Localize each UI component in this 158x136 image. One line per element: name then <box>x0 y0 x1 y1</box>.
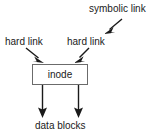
symbolic-link-arrow-shaft <box>110 19 123 30</box>
inode-to-data-blocks-arrow-right <box>74 85 83 118</box>
hard-link-left-label: hard link <box>5 36 43 48</box>
hard-link-right-label: hard link <box>67 36 105 48</box>
hard-link-right-arrow <box>74 48 89 63</box>
symbolic-link-arrow <box>104 19 122 34</box>
data-blocks-label: data blocks <box>35 120 86 132</box>
inode-box: inode <box>32 64 88 85</box>
symbolic-link-arrow-head <box>104 27 115 34</box>
inode-to-data-blocks-arrow-left <box>38 85 47 118</box>
inode-link-diagram: inode symbolic link hard link hard link … <box>0 0 158 136</box>
hard-link-left-arrow <box>26 48 44 63</box>
hard-link-left-arrow-shaft <box>26 48 39 58</box>
symbolic-link-label: symbolic link <box>89 3 146 15</box>
hard-link-right-arrow-shaft <box>80 48 90 58</box>
inode-box-label: inode <box>33 65 87 84</box>
